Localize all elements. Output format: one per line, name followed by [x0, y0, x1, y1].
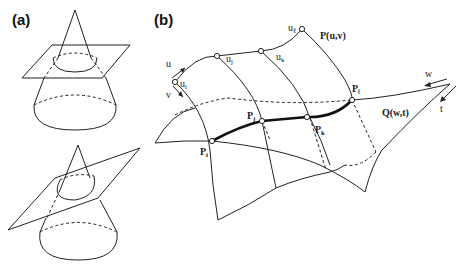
- horizontal-plane: [22, 45, 130, 78]
- label-Pi: Pi: [200, 146, 208, 159]
- label-v: v: [166, 89, 171, 100]
- panel-b-label: (b): [154, 11, 173, 28]
- figure-canvas: (a) (b): [0, 0, 462, 270]
- point-Pi: [209, 138, 214, 143]
- knot-point-j: [214, 53, 219, 58]
- label-Pj: Pj: [247, 110, 255, 123]
- label-Puv: P(u,v): [320, 30, 346, 42]
- knot-point-i: [172, 79, 177, 84]
- knot-point-k: [258, 48, 263, 53]
- label-ui: ui: [180, 78, 187, 91]
- surface-Q: [212, 84, 450, 192]
- intersection-curve: [212, 100, 352, 141]
- panel-a-label: (a): [12, 11, 30, 28]
- arrow-t-icon: [440, 86, 456, 102]
- label-Pk: Pk: [315, 124, 325, 137]
- label-ul: uℓ: [288, 22, 296, 35]
- label-uk: uk: [276, 51, 285, 64]
- point-Pl: [349, 97, 354, 102]
- label-Pl: Pℓ: [352, 83, 361, 96]
- label-uj: uj: [226, 53, 233, 66]
- label-Qwt: Q(w,t): [382, 107, 409, 119]
- label-w: w: [425, 68, 433, 79]
- cone-tilted-section: [8, 145, 140, 260]
- tilted-plane: [8, 148, 140, 230]
- point-Pj: [259, 118, 264, 123]
- knot-point-l: [299, 26, 304, 31]
- cone-horizontal-section: [22, 10, 130, 130]
- label-u: u: [166, 58, 171, 69]
- point-Pk: [304, 114, 309, 119]
- label-t: t: [440, 103, 443, 114]
